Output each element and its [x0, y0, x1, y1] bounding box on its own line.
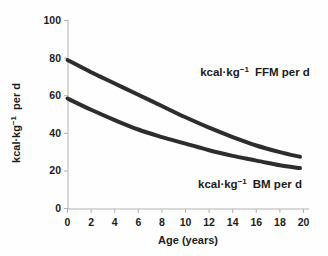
- x-tick-8: 8: [150, 216, 174, 229]
- y-tick-marks: [64, 21, 68, 209]
- x-tick-6: 6: [126, 216, 150, 229]
- x-tick-marks: [68, 209, 304, 213]
- x-tick-2: 2: [79, 216, 103, 229]
- x-tick-10: 10: [174, 216, 198, 229]
- bm-series-label: kcal·kg−1BM per d: [198, 178, 302, 190]
- x-tick-20: 20: [292, 216, 316, 229]
- x-tick-16: 16: [244, 216, 268, 229]
- x-tick-18: 18: [268, 216, 292, 229]
- x-tick-12: 12: [197, 216, 221, 229]
- y-tick-20: 20: [34, 164, 61, 177]
- line-chart-figure: 100 80 60 40 20 0 0 2 4 6 8 10 12 14 16 …: [0, 0, 328, 256]
- superscript-minus-one: −1: [240, 65, 249, 74]
- x-tick-14: 14: [221, 216, 245, 229]
- y-tick-0: 0: [34, 202, 61, 215]
- y-tick-40: 40: [34, 127, 61, 140]
- superscript-minus-one: −1: [238, 177, 247, 186]
- y-tick-80: 80: [34, 52, 61, 65]
- x-tick-0: 0: [56, 216, 80, 229]
- y-axis-title: kcal·kg−1per d: [10, 83, 22, 163]
- x-tick-4: 4: [103, 216, 127, 229]
- superscript-minus-one: −1: [9, 116, 18, 125]
- y-tick-60: 60: [34, 89, 61, 102]
- ffm-series-label: kcal·kg−1FFM per d: [200, 66, 310, 78]
- bm-curve: [68, 99, 301, 169]
- y-tick-100: 100: [34, 14, 61, 27]
- x-axis-title: Age (years): [158, 234, 218, 246]
